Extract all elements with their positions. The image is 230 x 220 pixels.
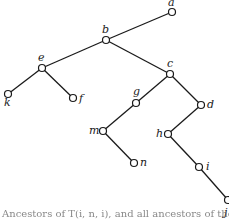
node-label-k: k	[4, 96, 11, 109]
node-label-d: d	[207, 98, 214, 111]
node-label-n: n	[140, 156, 147, 169]
tree-labels: abcdefghijkmn	[4, 0, 228, 219]
node-g	[133, 100, 140, 107]
node-f	[70, 95, 77, 102]
node-label-b: b	[102, 23, 109, 36]
node-label-h: h	[156, 127, 163, 140]
tree-edges	[8, 12, 228, 200]
tree-diagram: abcdefghijkmn	[0, 0, 229, 220]
edge-a-b	[106, 12, 172, 40]
node-c	[167, 71, 174, 78]
node-label-m: m	[89, 124, 99, 137]
node-b	[103, 37, 110, 44]
edge-m-n	[103, 131, 134, 163]
node-m	[100, 128, 107, 135]
node-n	[131, 160, 138, 167]
edge-e-f	[42, 68, 73, 98]
node-j	[225, 197, 230, 204]
node-label-i: i	[206, 160, 210, 173]
edge-b-c	[106, 40, 170, 74]
node-label-f: f	[78, 92, 85, 105]
node-d	[198, 102, 205, 109]
edge-g-m	[103, 103, 136, 131]
node-e	[39, 65, 46, 72]
edge-c-g	[136, 74, 170, 103]
node-label-e: e	[38, 51, 45, 64]
edge-b-e	[42, 40, 106, 68]
node-i	[196, 164, 203, 171]
figure-caption: Ancestors of T(i, n, i), and all ancesto…	[2, 208, 229, 219]
tree-nodes	[5, 9, 230, 204]
node-label-g: g	[133, 85, 140, 98]
edge-c-d	[170, 74, 201, 105]
node-h	[165, 131, 172, 138]
edge-d-h	[168, 105, 201, 134]
edge-e-k	[8, 68, 42, 94]
node-label-a: a	[168, 0, 175, 9]
node-label-c: c	[167, 57, 173, 70]
node-a	[169, 9, 176, 16]
edge-h-i	[168, 134, 199, 167]
edge-i-j	[199, 167, 228, 200]
